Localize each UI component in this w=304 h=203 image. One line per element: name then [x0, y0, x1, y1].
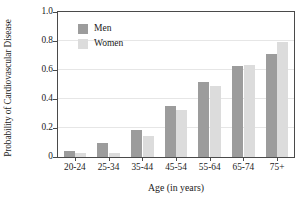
bar-women-45-54 [176, 110, 187, 157]
x-tick-mark [109, 157, 110, 161]
bar-men-65-74 [232, 66, 243, 157]
legend-label-men: Men [94, 24, 111, 34]
y-tick-label: 1.0 [41, 7, 53, 16]
bar-men-25-34 [97, 143, 108, 158]
legend-swatch-women-icon [78, 39, 88, 49]
bar-men-20-24 [64, 151, 75, 157]
y-tick-label: 0.4 [41, 94, 53, 103]
legend-item-women: Women [78, 36, 170, 51]
cardiovascular-disease-bar-chart: Probability of Cardiovascular Disease 00… [0, 0, 304, 203]
legend-item-men: Men [78, 21, 170, 36]
bar-group [260, 12, 294, 157]
bar-women-75+ [277, 42, 288, 157]
x-tick-label: 35-44 [131, 163, 153, 172]
y-tick-label: 0.6 [41, 65, 53, 74]
x-tick-label: 20-24 [64, 163, 86, 172]
bar-women-25-34 [109, 153, 120, 157]
bar-group [193, 12, 227, 157]
bar-group [227, 12, 261, 157]
bar-women-20-24 [75, 153, 86, 157]
x-tick-mark [142, 157, 143, 161]
bar-men-75+ [266, 54, 277, 157]
y-axis-title-text: Probability of Cardiovascular Disease [3, 19, 13, 157]
legend-label-women: Women [94, 39, 123, 49]
x-tick-mark [176, 157, 177, 161]
x-tick-label: 65-74 [233, 163, 255, 172]
bar-women-55-64 [210, 86, 221, 157]
y-axis-title: Probability of Cardiovascular Disease [0, 0, 16, 175]
bar-men-35-44 [131, 130, 142, 157]
x-tick-mark [210, 157, 211, 161]
x-tick-mark [75, 157, 76, 161]
y-tick-label: 0.8 [41, 36, 53, 45]
legend: Men Women [78, 21, 170, 51]
legend-swatch-men-icon [78, 24, 88, 34]
bar-men-45-54 [165, 106, 176, 157]
y-tick-label: 0 [48, 152, 53, 161]
x-tick-mark [277, 157, 278, 161]
bar-women-35-44 [143, 136, 154, 157]
x-tick-label: 55-64 [199, 163, 221, 172]
x-tick-label: 25-34 [98, 163, 120, 172]
x-tick-label: 75+ [270, 163, 285, 172]
x-tick-mark [243, 157, 244, 161]
x-tick-label: 45-54 [165, 163, 187, 172]
x-axis-title: Age (in years) [57, 182, 295, 193]
bar-women-65-74 [244, 65, 255, 157]
bar-men-55-64 [198, 82, 209, 157]
y-tick-label: 0.2 [41, 123, 53, 132]
